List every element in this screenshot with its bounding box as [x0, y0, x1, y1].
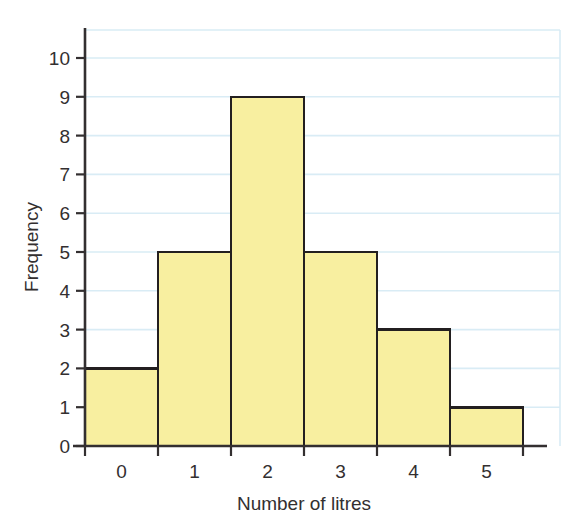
y-tick-label: 2 — [59, 358, 70, 379]
y-tick-label: 10 — [49, 48, 70, 69]
x-tick-label: 5 — [481, 461, 492, 482]
histogram-bar — [304, 252, 377, 446]
y-tick-label: 3 — [59, 320, 70, 341]
y-tick-label: 9 — [59, 87, 70, 108]
y-tick-label: 5 — [59, 242, 70, 263]
histogram-bar — [450, 407, 523, 446]
y-tick-label: 1 — [59, 397, 70, 418]
histogram-figure: 012345678910012345Number of litresFreque… — [0, 0, 588, 520]
histogram-bars — [85, 97, 523, 446]
y-tick-label: 6 — [59, 203, 70, 224]
y-tick-label: 7 — [59, 164, 70, 185]
x-axis-title: Number of litres — [237, 493, 371, 514]
y-axis-title: Frequency — [21, 202, 42, 292]
y-tick-label: 0 — [59, 436, 70, 457]
histogram-canvas: 012345678910012345Number of litresFreque… — [0, 0, 588, 520]
x-axis-ticks: 012345 — [85, 446, 523, 482]
y-axis-ticks: 012345678910 — [49, 48, 85, 457]
y-tick-label: 8 — [59, 126, 70, 147]
histogram-bar — [158, 252, 231, 446]
y-tick-label: 4 — [59, 281, 70, 302]
histogram-bar — [231, 97, 304, 446]
x-tick-label: 4 — [408, 461, 419, 482]
x-tick-label: 3 — [335, 461, 346, 482]
histogram-bar — [85, 368, 158, 446]
histogram-bar — [377, 330, 450, 446]
x-tick-label: 1 — [189, 461, 200, 482]
x-tick-label: 0 — [116, 461, 127, 482]
x-tick-label: 2 — [262, 461, 273, 482]
